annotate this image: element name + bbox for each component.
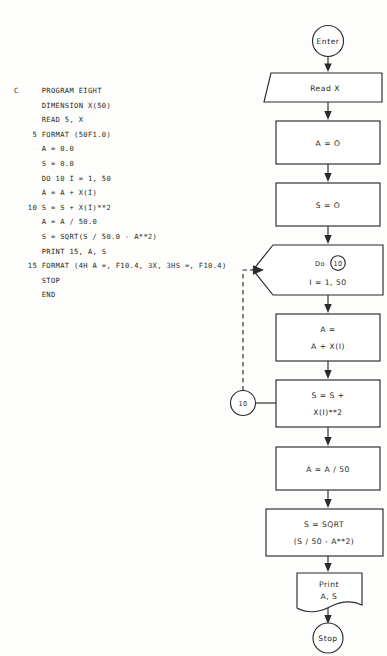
edge-enter-to-read <box>324 57 331 73</box>
node-label-accum-a-line1: A = <box>320 325 335 334</box>
node-label-init-s: S = O <box>316 201 341 210</box>
code-line: S = SQRT(S / 50.0 - A**2) <box>14 230 234 245</box>
node-label-do-loop-line1: Do <box>315 260 325 268</box>
edge-do-loop-to-accum-a <box>324 295 331 313</box>
code-line: READ 5, X <box>14 113 234 128</box>
code-line: C PROGRAM EIGHT <box>14 84 234 99</box>
edge-print-to-stop <box>324 608 331 624</box>
node-label-stddev-s-line1: S = SQRT <box>304 520 344 529</box>
code-line: 15 FORMAT (4H A =, F10.4, 3X, 3HS =, F10… <box>14 259 234 274</box>
node-label-enter: Enter <box>317 37 340 46</box>
flowchart-node-enter: Enter <box>313 26 344 57</box>
node-label-stddev-s-line2: (S / 50 - A**2) <box>294 537 354 546</box>
flowchart-node-read: Read X <box>264 73 382 102</box>
flowchart-node-init-a: A = O <box>276 121 380 164</box>
node-label-do-loop-line2: I = 1, 50 <box>309 278 346 287</box>
code-line: STOP <box>14 274 234 289</box>
code-line: DO 10 I = 1, 50 <box>14 172 234 187</box>
node-label-init-a: A = O <box>316 139 341 148</box>
code-line: PRINT 15, A, S <box>14 245 234 260</box>
node-label-accum-s-line1: S = S + <box>311 391 344 400</box>
node-label-accum-s-line2: X(I)**2 <box>313 408 342 417</box>
edge-mean-a-to-stddev-s <box>324 490 331 508</box>
code-line: END <box>14 288 234 303</box>
node-label-mean-a: A = A / 50 <box>306 465 350 474</box>
page-canvas: C PROGRAM EIGHT DIMENSION X(50) READ 5, … <box>0 0 387 656</box>
flowchart: Enter Read X A = O <box>225 0 387 656</box>
edge-connector-10-to-do-loop <box>243 265 264 390</box>
code-listing: C PROGRAM EIGHT DIMENSION X(50) READ 5, … <box>14 84 234 303</box>
edge-accum-a-to-accum-s <box>324 361 331 379</box>
code-line: S = 0.0 <box>14 157 234 172</box>
flowchart-node-connector-10: 10 <box>231 391 256 416</box>
code-line: 10 S = S + X(I)**2 <box>14 201 234 216</box>
flowchart-node-mean-a: A = A / 50 <box>276 447 380 490</box>
code-line: DIMENSION X(50) <box>14 99 234 114</box>
node-label-accum-a-line2: A + X(I) <box>311 342 345 351</box>
node-label-print-line2: A, S <box>321 592 338 601</box>
edge-accum-s-to-mean-a <box>324 427 331 446</box>
node-label-do-loop-tag: 10 <box>333 260 342 268</box>
flowchart-node-print: Print A, S <box>297 573 362 612</box>
code-line: 5 FORMAT (50F1.0) <box>14 128 234 143</box>
code-line: A = A + X(I) <box>14 186 234 201</box>
code-line: A = 0.0 <box>14 142 234 157</box>
flowchart-node-do-loop: Do 10 I = 1, 50 <box>253 245 383 295</box>
flowchart-node-init-s: S = O <box>276 183 380 226</box>
node-label-stop: Stop <box>318 634 337 643</box>
edge-read-to-init-a <box>324 102 331 120</box>
flowchart-node-accum-a: A = A + X(I) <box>276 314 380 361</box>
node-label-read: Read X <box>310 84 340 93</box>
flowchart-node-stop: Stop <box>313 623 343 653</box>
node-label-connector-10: 10 <box>238 400 247 408</box>
flowchart-node-accum-s: S = S + X(I)**2 <box>276 380 380 427</box>
node-label-print-line1: Print <box>319 580 339 589</box>
edge-init-s-to-do-loop <box>324 226 331 244</box>
code-line: A = A / 50.0 <box>14 215 234 230</box>
edge-stddev-s-to-print <box>324 556 331 572</box>
edge-init-a-to-init-s <box>324 164 331 182</box>
flowchart-node-stddev-s: S = SQRT (S / 50 - A**2) <box>266 509 383 556</box>
